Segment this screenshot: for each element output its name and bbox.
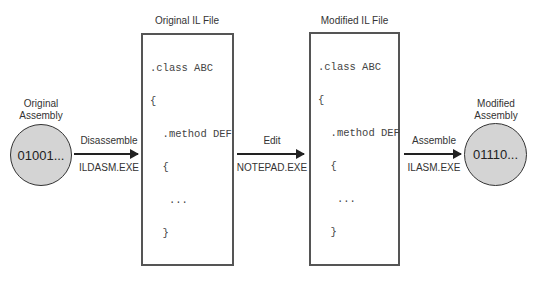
modified-il-file-title: Modified IL File xyxy=(309,15,400,26)
original-il-file-title: Original IL File xyxy=(141,15,233,26)
code-line: } xyxy=(318,227,402,238)
code-line: { xyxy=(150,162,234,173)
code-line: } xyxy=(150,228,234,239)
original-assembly-label-line2: Assembly xyxy=(6,110,76,122)
original-il-file-box: .class ABC { .method DEF { ... } .method… xyxy=(141,33,234,266)
modified-assembly-label-line2: Assembly xyxy=(460,110,532,122)
code-line-blank xyxy=(318,260,402,271)
ildasm-tool-label: ILDASM.EXE xyxy=(76,162,142,174)
disassemble-arrow xyxy=(74,153,138,155)
edit-arrow xyxy=(237,153,304,155)
code-line: ... xyxy=(318,194,402,205)
code-line-blank xyxy=(150,261,234,272)
modified-assembly-label: Modified Assembly xyxy=(460,98,532,122)
code-line: ... xyxy=(150,195,234,206)
code-line: { xyxy=(318,161,402,172)
modified-il-code: .class ABC { .method DEF { ... } .method… xyxy=(318,40,402,282)
assemble-label: Assemble xyxy=(404,135,464,147)
code-line: { xyxy=(150,96,234,107)
original-assembly-bits: 01001... xyxy=(18,148,65,163)
code-line: .class ABC xyxy=(150,63,234,74)
notepad-tool-label: NOTEPAD.EXE xyxy=(234,162,310,174)
original-il-code: .class ABC { .method DEF { ... } .method… xyxy=(150,41,234,282)
ilasm-tool-label: ILASM.EXE xyxy=(403,162,465,174)
code-line: .method DEF xyxy=(318,128,402,139)
modified-assembly-circle: 01110... xyxy=(464,123,527,186)
modified-assembly-label-line1: Modified xyxy=(460,98,532,110)
code-line: .method DEF xyxy=(150,129,234,140)
code-line: { xyxy=(318,95,402,106)
original-assembly-label: Original Assembly xyxy=(6,98,76,122)
disassemble-label: Disassemble xyxy=(76,135,142,147)
assemble-arrow xyxy=(404,153,461,155)
original-assembly-label-line1: Original xyxy=(6,98,76,110)
code-line: .class ABC xyxy=(318,62,402,73)
edit-label: Edit xyxy=(236,135,308,147)
modified-il-file-box: .class ABC { .method DEF { ... } .method… xyxy=(309,32,400,266)
original-assembly-circle: 01001... xyxy=(10,124,72,186)
modified-assembly-bits: 01110... xyxy=(473,147,518,162)
